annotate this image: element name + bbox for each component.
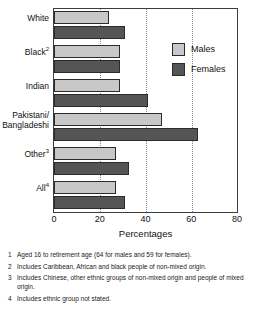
footnote-number: 4 xyxy=(8,294,17,303)
category-label-pakistani-bangladeshi: Pakistani/ Bangladeshi xyxy=(0,111,49,130)
x-tick-label-80: 80 xyxy=(232,214,242,224)
bar-females-0 xyxy=(54,26,125,39)
bar-males-0 xyxy=(54,11,109,24)
plot-area: Males Females xyxy=(53,8,238,213)
category-label-text-line2: Bangladeshi xyxy=(2,120,49,130)
category-label-other: Other3 xyxy=(0,150,49,160)
legend-label-females: Females xyxy=(191,64,226,74)
legend-swatch-males-icon xyxy=(172,43,185,56)
category-label-text: All xyxy=(36,183,45,193)
gridline-40 xyxy=(146,9,148,212)
gridline-60 xyxy=(192,9,194,212)
category-label-text: Pakistani/ xyxy=(12,110,49,120)
x-tick-label-20: 20 xyxy=(95,214,105,224)
x-axis-ticks: 020406080 xyxy=(53,214,238,226)
category-label-text: Black xyxy=(25,47,46,57)
footnote-text: Aged 16 to retirement age (64 for males … xyxy=(17,250,246,259)
footnote-text: Includes Chinese, other ethnic groups of… xyxy=(17,273,246,291)
footnote-4: 4 Includes ethnic group not stated. xyxy=(8,294,246,303)
bar-chart-figure: White Black2 Indian Pakistani/ Banglades… xyxy=(0,0,253,246)
footnote-1: 1 Aged 16 to retirement age (64 for male… xyxy=(8,250,246,259)
bar-females-5 xyxy=(54,196,125,209)
footnote-2: 2 Includes Caribbean, African and black … xyxy=(8,262,246,271)
x-tick-label-60: 60 xyxy=(186,214,196,224)
footnote-3: 3 Includes Chinese, other ethnic groups … xyxy=(8,273,246,291)
bar-females-1 xyxy=(54,60,120,73)
footnotes-block: 1 Aged 16 to retirement age (64 for male… xyxy=(8,250,246,305)
x-tick-label-0: 0 xyxy=(51,214,56,224)
category-label-text: Indian xyxy=(26,81,49,91)
legend-swatch-females-icon xyxy=(172,63,185,76)
bar-males-1 xyxy=(54,45,120,58)
x-tick-label-40: 40 xyxy=(140,214,150,224)
bar-males-3 xyxy=(54,113,162,126)
x-axis-title: Percentages xyxy=(53,228,238,239)
footnote-marker: 2 xyxy=(46,46,49,52)
bar-males-4 xyxy=(54,147,116,160)
footnote-marker: 3 xyxy=(46,148,49,154)
legend-item-females: Females xyxy=(172,61,238,77)
category-label-indian: Indian xyxy=(0,82,49,92)
category-label-text: Other xyxy=(24,149,45,159)
category-label-all: All4 xyxy=(0,184,49,194)
bar-females-4 xyxy=(54,162,129,175)
bar-males-2 xyxy=(54,79,120,92)
category-label-white: White xyxy=(0,14,49,24)
legend-item-males: Males xyxy=(172,41,238,57)
bar-males-5 xyxy=(54,181,116,194)
category-label-black: Black2 xyxy=(0,48,49,58)
footnote-number: 2 xyxy=(8,262,17,271)
legend-label-males: Males xyxy=(191,44,215,54)
footnote-text: Includes Caribbean, African and black pe… xyxy=(17,262,246,271)
footnote-marker: 4 xyxy=(46,182,49,188)
category-axis-labels: White Black2 Indian Pakistani/ Banglades… xyxy=(0,8,51,213)
footnote-number: 3 xyxy=(8,273,17,291)
chart-legend: Males Females xyxy=(172,41,238,81)
footnote-number: 1 xyxy=(8,250,17,259)
footnote-text: Includes ethnic group not stated. xyxy=(17,294,246,303)
bar-females-2 xyxy=(54,94,148,107)
category-label-text: White xyxy=(27,13,49,23)
bar-females-3 xyxy=(54,128,198,141)
